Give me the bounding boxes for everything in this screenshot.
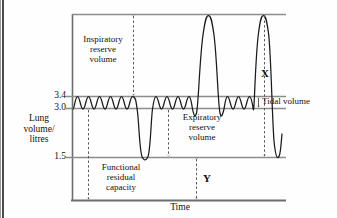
- y-axis-title-line-1: Lung: [8, 113, 70, 124]
- irv-line-1: Inspiratory: [76, 34, 130, 44]
- y-axis-title-line-3: litres: [8, 134, 70, 145]
- irv-line-3: volume: [76, 54, 130, 64]
- figure-root: 3.4 3.0 1.5 Lung volume/ litres Time Ins…: [0, 0, 337, 218]
- marker-x-label: X: [256, 67, 274, 79]
- y-axis-title-line-2: volume/: [8, 124, 70, 135]
- marker-y-label: Y: [198, 172, 216, 184]
- frc-line-1: Functional: [93, 162, 149, 172]
- y-tick-3-4: 3.4: [44, 90, 66, 100]
- frc-line-2: residual: [93, 172, 149, 182]
- x-axis-title: Time: [155, 202, 205, 213]
- y-tick-3-0: 3.0: [44, 102, 66, 112]
- frc-line-3: capacity: [93, 182, 149, 192]
- inspiratory-reserve-volume-label: Inspiratory reserve volume: [76, 34, 130, 64]
- erv-line-1: Expiratory: [174, 112, 230, 122]
- irv-line-2: reserve: [76, 44, 130, 54]
- functional-residual-capacity-label: Functional residual capacity: [93, 162, 149, 192]
- expiratory-reserve-volume-label: Expiratory reserve volume: [174, 112, 230, 142]
- y-tick-1-5: 1.5: [44, 151, 66, 161]
- erv-line-3: volume: [174, 132, 230, 142]
- erv-line-2: reserve: [174, 122, 230, 132]
- y-axis-title: Lung volume/ litres: [8, 113, 70, 145]
- tidal-volume-label: Tidal volume: [262, 96, 336, 106]
